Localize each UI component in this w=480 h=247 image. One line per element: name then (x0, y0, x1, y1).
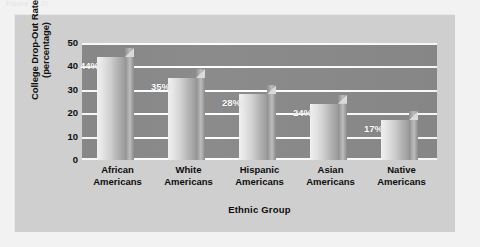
bar-front-face (97, 57, 125, 160)
y-axis-title: College Drop-Out Rate (percentage) (29, 0, 53, 110)
bars: 44%35%28%24%17% (82, 43, 437, 160)
category-label-3: HispanicAmericans (224, 164, 295, 187)
category-label-line: Native (366, 164, 437, 176)
y-tick-label: 30 (54, 85, 78, 95)
bar-side-face (338, 95, 347, 160)
y-axis-title-line-2: (percentage) (40, 0, 51, 110)
bar-3[interactable] (239, 85, 276, 160)
bar-2[interactable] (168, 69, 205, 160)
y-tick-label: 0 (54, 155, 78, 165)
x-axis-category-labels: AfricanAmericansWhiteAmericansHispanicAm… (82, 164, 437, 192)
bar-value-label: 17% (364, 124, 383, 134)
bar-side-face (196, 69, 205, 160)
category-label-line: Americans (295, 176, 366, 188)
category-label-line: Asian (295, 164, 366, 176)
bar-side-face (125, 48, 134, 160)
category-label-4: AsianAmericans (295, 164, 366, 187)
x-axis-title: Ethnic Group (82, 204, 437, 215)
category-label-line: White (153, 164, 224, 176)
bar-front-face (168, 78, 196, 160)
bar-1[interactable] (97, 48, 134, 160)
y-tick-label: 50 (54, 38, 78, 48)
bar-4[interactable] (310, 95, 347, 160)
y-tick-label: 40 (54, 61, 78, 71)
bar-value-label: 44% (80, 61, 99, 71)
bar-front-face (381, 120, 409, 160)
bar-value-label: 28% (222, 98, 241, 108)
y-tick-label: 10 (54, 132, 78, 142)
bar-5[interactable] (381, 111, 418, 160)
category-label-2: WhiteAmericans (153, 164, 224, 187)
category-label-line: Hispanic (224, 164, 295, 176)
category-label-line: Americans (224, 176, 295, 188)
bar-side-face (267, 85, 276, 160)
bar-front-face (310, 104, 338, 160)
bar-value-label: 35% (151, 82, 170, 92)
category-label-line: Americans (153, 176, 224, 188)
y-axis-title-line-1: College Drop-Out Rate (29, 0, 40, 100)
category-label-line: Americans (366, 176, 437, 188)
y-tick-label: 20 (54, 108, 78, 118)
category-label-1: AfricanAmericans (82, 164, 153, 187)
plot-area: 44%35%28%24%17% (82, 43, 437, 160)
figure-panel: College Drop-Out Rate (percentage) 01020… (14, 14, 455, 232)
category-label-line: Americans (82, 176, 153, 188)
bar-front-face (239, 94, 267, 160)
category-label-line: African (82, 164, 153, 176)
category-label-5: NativeAmericans (366, 164, 437, 187)
y-axis-tick-labels: 01020304050 (54, 36, 78, 162)
bar-value-label: 24% (293, 108, 312, 118)
